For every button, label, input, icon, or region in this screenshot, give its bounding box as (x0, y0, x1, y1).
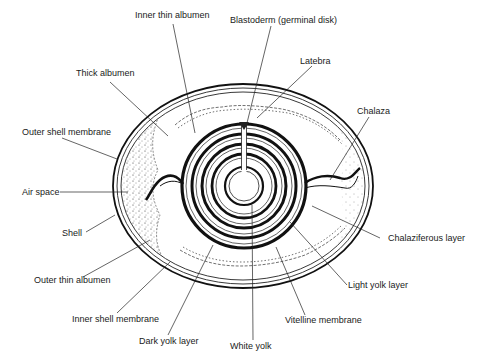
label-light-yolk-layer: Light yolk layer (348, 280, 408, 290)
label-inner-thin-albumen: Inner thin albumen (135, 10, 210, 20)
label-chalaza: Chalaza (357, 106, 390, 116)
label-dark-yolk-layer: Dark yolk layer (139, 336, 199, 346)
label-latebra: Latebra (300, 56, 331, 66)
label-chalaziferous-layer: Chalaziferous layer (388, 233, 465, 243)
egg-structure-diagram: Inner thin albumen Blastoderm (germinal … (0, 0, 480, 363)
chalazae (146, 168, 360, 200)
label-shell: Shell (62, 228, 82, 238)
label-white-yolk: White yolk (230, 341, 272, 351)
labels: Inner thin albumen Blastoderm (germinal … (22, 10, 465, 351)
label-vitelline-membrane: Vitelline membrane (285, 315, 362, 325)
label-outer-thin-albumen: Outer thin albumen (34, 275, 111, 285)
label-blastoderm: Blastoderm (germinal disk) (230, 15, 337, 25)
label-thick-albumen: Thick albumen (76, 68, 135, 78)
label-outer-shell-membrane: Outer shell membrane (22, 127, 111, 137)
latebra-neck (239, 122, 249, 172)
label-air-space: Air space (22, 187, 60, 197)
label-inner-shell-membrane: Inner shell membrane (72, 314, 159, 324)
